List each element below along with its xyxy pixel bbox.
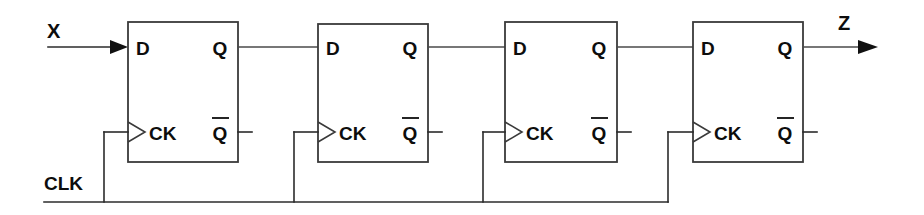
- output-z-label: Z: [838, 12, 850, 34]
- flipflop-2: D Q Q CK: [294, 24, 442, 202]
- flipflop-2-qbar-label: Q: [403, 123, 418, 144]
- circuit-canvas: X D Q Q CK D Q Q CK: [0, 0, 924, 215]
- input-x-group: X: [47, 20, 128, 54]
- flipflop-3-d-label: D: [513, 38, 527, 59]
- flipflop-3-ck-label: CK: [526, 123, 554, 144]
- flipflop-4-d-label: D: [701, 38, 715, 59]
- flipflop-1-q-label: Q: [213, 38, 228, 59]
- flipflop-2-d-label: D: [326, 38, 340, 59]
- flipflop-1-ck-label: CK: [149, 123, 177, 144]
- output-z-arrow-icon: [858, 40, 878, 54]
- output-z-group: Z: [803, 12, 878, 54]
- input-x-arrow-icon: [110, 40, 128, 54]
- flipflop-1-d-label: D: [136, 38, 150, 59]
- clock-label: CLK: [44, 173, 83, 194]
- flipflop-1-qbar-label: Q: [213, 123, 228, 144]
- circuit-diagram: X D Q Q CK D Q Q CK: [0, 0, 924, 215]
- flipflop-3-qbar-label: Q: [592, 123, 607, 144]
- flipflop-2-ck-label: CK: [339, 123, 367, 144]
- flipflop-1: D Q Q CK: [104, 22, 252, 202]
- input-x-label: X: [47, 20, 61, 42]
- flipflop-4-qbar-label: Q: [778, 123, 793, 144]
- flipflop-3: D Q Q CK: [483, 22, 631, 202]
- flipflop-4-ck-label: CK: [714, 123, 742, 144]
- clock-bus-group: CLK: [44, 173, 668, 202]
- flipflop-4: D Q Q CK: [668, 22, 817, 202]
- flipflop-2-q-label: Q: [403, 38, 418, 59]
- flipflop-3-q-label: Q: [592, 38, 607, 59]
- flipflop-4-q-label: Q: [778, 38, 793, 59]
